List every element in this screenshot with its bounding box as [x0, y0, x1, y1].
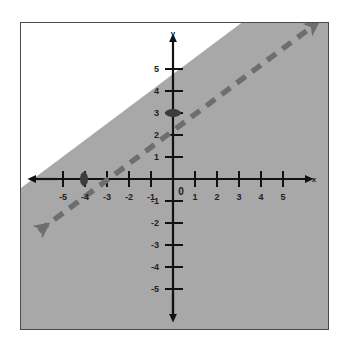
y-tick-label: 1 [154, 152, 159, 162]
y-tick-label: -3 [151, 240, 159, 250]
graph-page: -5 -4 -3 -2 -1 1 2 3 4 5 5 4 3 2 1 -1 -2… [0, 0, 349, 349]
y-tick-label: -4 [151, 262, 159, 272]
x-tick-label: 3 [236, 192, 241, 202]
coordinate-plane: -5 -4 -3 -2 -1 1 2 3 4 5 5 4 3 2 1 -1 -2… [21, 23, 328, 329]
x-tick-label: 1 [192, 192, 197, 202]
x-tick-label: -2 [125, 192, 133, 202]
x-tick-label: 5 [280, 192, 285, 202]
x-tick-label: 2 [214, 192, 219, 202]
y-tick-label: -1 [151, 196, 159, 206]
y-tick-label: 5 [154, 64, 159, 74]
x-intercept-marker [80, 172, 88, 186]
y-tick-label: -2 [151, 218, 159, 228]
x-tick-label: -5 [59, 192, 67, 202]
x-tick-label: -4 [81, 192, 89, 202]
y-tick-label: 4 [154, 86, 159, 96]
x-tick-label: -3 [103, 192, 111, 202]
y-axis-label: y [171, 29, 176, 38]
origin-label: 0 [178, 186, 184, 197]
y-tick-label: 3 [154, 108, 159, 118]
y-tick-label: 2 [154, 130, 159, 140]
plot-frame: -5 -4 -3 -2 -1 1 2 3 4 5 5 4 3 2 1 -1 -2… [20, 22, 329, 330]
x-tick-label: 4 [258, 192, 263, 202]
x-axis-label: x [312, 175, 317, 184]
y-intercept-marker [165, 109, 181, 117]
y-tick-label: -5 [151, 284, 159, 294]
